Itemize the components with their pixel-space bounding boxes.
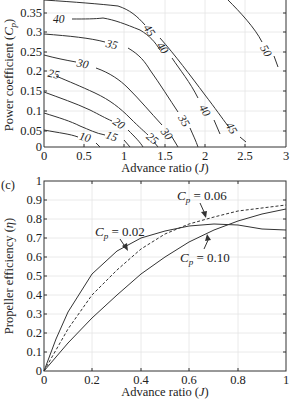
series-cp-002 — [44, 224, 286, 371]
contour-label-45-b: 45 — [224, 120, 240, 136]
xtick-label: 3 — [283, 149, 289, 163]
ytick-label: 0.05 — [20, 124, 42, 138]
arrowhead-cp-010 — [205, 234, 211, 241]
ytick-label: 0.9 — [26, 193, 42, 207]
xtick-label: 0.8 — [230, 373, 246, 387]
ytick-label: 0.6 — [26, 250, 42, 264]
ytick-label: 0.8 — [26, 212, 42, 226]
ytick-label: 0.1 — [26, 104, 42, 118]
annotation-cp-006: Cp = 0.06 — [177, 188, 227, 205]
contour-label-35-b: 35 — [176, 112, 193, 129]
top-x-axis-label: Advance ratio (J) — [121, 161, 208, 175]
ytick-label: 0.2 — [26, 64, 42, 78]
top-grid — [44, 0, 286, 147]
bottom-x-axis-label: Advance ratio (J) — [121, 385, 208, 399]
xtick-label: 0 — [41, 373, 47, 387]
contour-50 — [228, 0, 278, 67]
xtick-label: 0 — [41, 149, 47, 163]
ytick-label: 0.5 — [26, 269, 42, 283]
series-cp-010 — [44, 209, 286, 371]
contour-label-50: 50 — [258, 43, 274, 59]
contour-20 — [44, 92, 143, 147]
contour-label-40-a: 40 — [53, 13, 65, 25]
top-contours — [44, 0, 278, 147]
panel-label-c: (c) — [1, 178, 15, 192]
annotation-cp-010: Cp = 0.10 — [180, 250, 230, 267]
top-yticks: 0 0.05 0.1 0.15 0.2 0.25 0.3 0.35 — [20, 6, 42, 154]
bottom-efficiency-plot: (c) Cp = 0.02 Cp = — [1, 174, 289, 399]
xtick-label: 1 — [283, 373, 289, 387]
ytick-label: 0.2 — [26, 326, 42, 340]
contour-label-30-a: 30 — [158, 125, 175, 142]
bottom-grid — [44, 181, 286, 371]
contour-label-10: 10 — [78, 130, 92, 144]
annotation-cp-002: Cp = 0.02 — [95, 224, 145, 241]
ytick-label: 0.3 — [26, 25, 42, 39]
ytick-label: 0.1 — [26, 345, 42, 359]
contour-label-40-c: 40 — [197, 102, 213, 118]
ytick-label: 1 — [36, 174, 42, 188]
ytick-label: 0.35 — [20, 6, 42, 20]
ytick-label: 0.4 — [26, 288, 42, 302]
ytick-label: 0.7 — [26, 231, 42, 245]
contour-label-35-a: 35 — [104, 37, 119, 52]
xtick-label: 0.2 — [84, 373, 100, 387]
top-y-axis-label: Power coefficient (Cp) — [2, 19, 18, 132]
figure: 10 15 20 25 25 30 30 35 35 40 40 40 45 4… — [0, 0, 291, 410]
contour-label-40-b: 40 — [155, 40, 172, 57]
bottom-yticks: 0 0.1 0.2 0.3 0.4 0.5 0.6 0.7 0.8 0.9 1 — [26, 174, 42, 378]
contour-40 — [72, 18, 220, 134]
xtick-label: 2.5 — [237, 149, 253, 163]
bottom-series — [44, 205, 286, 371]
top-contour-plot: 10 15 20 25 25 30 30 35 35 40 40 40 45 4… — [2, 0, 289, 175]
contour-label-15: 15 — [104, 128, 119, 143]
ytick-label: 0.3 — [26, 307, 42, 321]
contour-label-25-b: 25 — [47, 67, 61, 81]
ytick-label: 0.25 — [20, 45, 42, 59]
contour-label-30-b: 30 — [75, 56, 90, 70]
arrowhead-cp-006 — [201, 211, 207, 218]
bottom-y-axis-label: Propeller efficiency (η) — [2, 218, 16, 334]
xtick-label: 0.5 — [76, 149, 92, 163]
series-cp-006 — [44, 205, 286, 371]
ytick-label: 0.15 — [20, 84, 42, 98]
